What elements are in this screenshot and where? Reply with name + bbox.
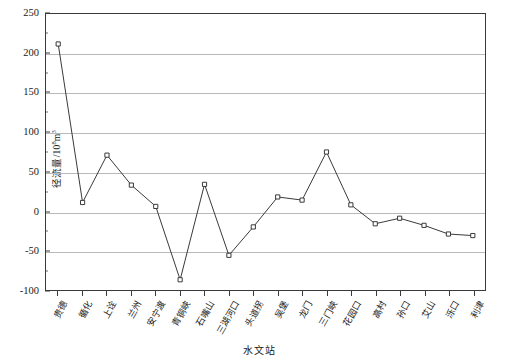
y-tick-label-0: 0 [34,206,39,217]
x-axis-title: 水文站 [0,342,518,357]
plot-area [45,13,486,291]
x-tick-5 [180,291,181,296]
x-tick-10 [302,291,303,296]
x-tick-6 [204,291,205,296]
y-tick-label-250: 250 [23,8,39,19]
data-point-marker [373,222,377,226]
x-tick-13 [376,291,377,296]
x-tick-label-17: 利津 [470,300,487,321]
data-point-marker [129,183,133,187]
y-tick-label-150: 150 [23,87,39,98]
y-tick-label-200: 200 [23,47,39,58]
y-tick-label-50: 50 [29,167,40,178]
x-tick-label-12: 花园口 [342,300,364,329]
data-point-marker [276,195,280,199]
x-tick-2 [106,291,107,296]
x-tick-17 [474,291,475,296]
x-tick-label-7: 三湖河口 [215,300,242,337]
x-tick-0 [57,291,58,296]
x-tick-label-11: 三门峡 [318,300,340,329]
data-point-marker [105,153,109,157]
x-tick-4 [155,291,156,296]
y-tick-label--100: -100 [20,286,39,297]
runoff-line-chart: 径流量/108m3 -100-50050100150200250 贵德循化上诠兰… [0,0,518,361]
x-tick-1 [82,291,83,296]
x-tick-14 [400,291,401,296]
y-axis-tick-labels: -100-50050100150200250 [0,13,39,291]
data-point-marker [251,225,255,229]
data-point-marker [202,182,206,186]
y-tick-label-100: 100 [23,127,39,138]
x-tick-8 [253,291,254,296]
x-tick-label-3: 兰州 [127,300,144,321]
x-tick-label-4: 安宁渡 [146,300,168,329]
data-point-marker [300,198,304,202]
x-tick-label-16: 泺口 [445,300,462,321]
data-point-marker [56,42,60,46]
x-tick-label-15: 艾山 [421,300,438,321]
y-tick-label--50: -50 [25,246,39,257]
x-tick-label-1: 循化 [78,300,95,321]
x-tick-3 [131,291,132,296]
x-tick-16 [449,291,450,296]
x-tick-label-2: 上诠 [102,300,119,321]
x-tick-11 [327,291,328,296]
data-point-marker [80,200,84,204]
x-tick-label-9: 吴堡 [274,300,291,321]
data-point-marker [324,150,328,154]
x-tick-12 [351,291,352,296]
data-point-marker [422,223,426,227]
x-tick-9 [278,291,279,296]
data-point-marker [446,232,450,236]
data-point-marker [349,203,353,207]
x-tick-label-5: 青铜峡 [171,300,193,329]
data-series-runoff [46,14,485,290]
data-point-marker [154,204,158,208]
data-point-marker [398,216,402,220]
data-point-marker [178,278,182,282]
x-tick-15 [425,291,426,296]
x-tick-label-0: 贵德 [53,300,70,321]
x-tick-label-13: 高村 [372,300,389,321]
x-tick-label-14: 孙口 [396,300,413,321]
data-point-marker [471,233,475,237]
x-tick-label-8: 头道拐 [244,300,266,329]
x-tick-label-6: 石嘴山 [195,300,217,329]
x-tick-7 [229,291,230,296]
x-tick-label-10: 龙门 [298,300,315,321]
series-line [58,44,473,280]
data-point-marker [227,253,231,257]
